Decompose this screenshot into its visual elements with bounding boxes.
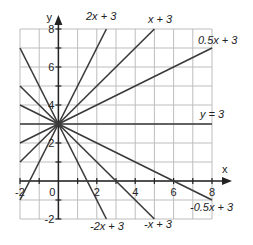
y-axis-label: y (46, 11, 52, 23)
labels: -202468-22468xy2x + 3x + 30.5x + 3y = 3-… (15, 10, 238, 232)
series-label: -x + 3 (144, 218, 173, 230)
line-x-3 (20, 29, 154, 162)
y-tick-label: 6 (48, 61, 54, 73)
series-label: y = 3 (199, 108, 225, 120)
y-tick-label: 8 (48, 23, 54, 35)
y-axis-arrow-icon (54, 15, 62, 25)
series-label: x + 3 (147, 13, 173, 25)
x-axis-label: x (222, 163, 228, 175)
line--x-3 (20, 86, 154, 219)
x-tick-label: 6 (171, 186, 177, 198)
x-tick-label: 8 (209, 186, 215, 198)
x-tick-label: -2 (15, 186, 25, 198)
line-2x-3 (20, 29, 106, 200)
x-axis-arrow-icon (222, 177, 232, 185)
series-label: 0.5x + 3 (198, 34, 238, 46)
y-tick-label: 4 (48, 99, 54, 111)
x-tick-label: 0 (49, 186, 55, 198)
linear-functions-graph: -202468-22468xy2x + 3x + 30.5x + 3y = 3-… (0, 0, 253, 245)
y-tick-label: 2 (48, 137, 54, 149)
series-label: -0.5x + 3 (190, 201, 234, 213)
y-tick-label: -2 (45, 213, 55, 225)
x-tick-label: 2 (94, 186, 100, 198)
series-label: 2x + 3 (85, 10, 117, 22)
x-tick-label: 4 (132, 186, 138, 198)
series-label: -2x + 3 (90, 220, 125, 232)
